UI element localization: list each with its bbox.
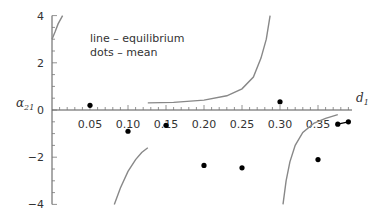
mean-dot — [239, 165, 244, 170]
equilibrium-curve — [114, 148, 148, 205]
mean-dot — [277, 99, 282, 104]
mean-dot — [125, 129, 130, 134]
y-tick-label: 2 — [37, 57, 44, 70]
mean-dot — [315, 157, 320, 162]
x-tick-label: 0.25 — [230, 118, 255, 131]
y-tick-label: 4 — [37, 10, 44, 23]
x-tick-label: 0.35 — [306, 118, 331, 131]
mean-dot — [87, 103, 92, 108]
equilibrium-curve — [148, 16, 270, 103]
x-axis-label: d1 — [356, 91, 369, 107]
y-tick-label: −2 — [28, 151, 44, 164]
legend: line – equilibrium dots – mean — [90, 32, 184, 59]
axes: −4−20240.050.100.150.200.250.300.35 — [28, 10, 352, 212]
legend-entry-dots: dots – mean — [90, 46, 157, 59]
x-tick-label: 0.05 — [78, 118, 103, 131]
x-tick-label: 0.30 — [268, 118, 293, 131]
mean-dot — [201, 163, 206, 168]
y-axis-label: α21 — [16, 96, 34, 112]
legend-entry-line: line – equilibrium — [90, 32, 184, 45]
x-tick-label: 0.20 — [192, 118, 217, 131]
y-tick-label: 0 — [37, 104, 44, 117]
chart: −4−20240.050.100.150.200.250.300.35 line… — [0, 0, 382, 219]
y-tick-label: −4 — [28, 198, 44, 211]
mean-dot — [335, 122, 340, 127]
mean-dot — [346, 119, 351, 124]
mean-dot — [163, 123, 168, 128]
